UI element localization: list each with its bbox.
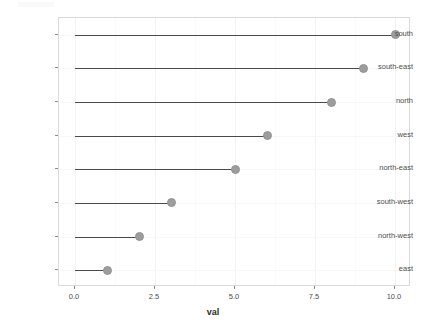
x-tick-mark: [154, 286, 155, 289]
gridline-major-x: [75, 18, 76, 285]
lollipop-point[interactable]: [327, 98, 336, 107]
gridline-minor-x: [275, 18, 276, 285]
y-tick-mark: [55, 67, 58, 68]
lollipop-point[interactable]: [263, 131, 272, 140]
gridline-major-x: [315, 18, 316, 285]
lollipop-segment: [75, 237, 139, 238]
y-tick-mark: [55, 269, 58, 270]
plot-panel: [58, 17, 410, 286]
y-tick-label-north: north: [396, 97, 413, 105]
lollipop-segment: [75, 169, 235, 170]
lollipop-segment: [75, 35, 395, 36]
y-tick-mark: [55, 34, 58, 35]
y-tick-label-west: west: [398, 131, 413, 139]
gridline-major-x: [155, 18, 156, 285]
lollipop-segment: [75, 102, 331, 103]
x-tick-mark: [394, 286, 395, 289]
y-tick-label-north-west: north-west: [378, 232, 413, 240]
lollipop-point[interactable]: [167, 198, 176, 207]
lollipop-chart: southsouth-eastnorthwestnorth-eastsouth-…: [0, 0, 426, 329]
image-artifact: [18, 2, 54, 7]
y-tick-mark: [55, 236, 58, 237]
gridline-minor-x: [195, 18, 196, 285]
x-tick-label-5.0: 5.0: [229, 293, 239, 301]
x-tick-mark: [234, 286, 235, 289]
lollipop-segment: [75, 136, 267, 137]
y-tick-label-south: south: [395, 30, 413, 38]
y-tick-label-north-east: north-east: [379, 165, 413, 173]
y-tick-label-east: east: [399, 265, 413, 273]
gridline-major-y: [59, 270, 409, 271]
x-tick-label-2.5: 2.5: [149, 293, 159, 301]
gridline-minor-x: [355, 18, 356, 285]
x-tick-mark: [314, 286, 315, 289]
x-tick-label-7.5: 7.5: [309, 293, 319, 301]
y-tick-label-south-west: south-west: [377, 198, 413, 206]
x-tick-label-10.0: 10.0: [387, 293, 402, 301]
gridline-major-x: [235, 18, 236, 285]
gridline-major-x: [395, 18, 396, 285]
lollipop-point[interactable]: [103, 266, 112, 275]
lollipop-point[interactable]: [231, 165, 240, 174]
lollipop-segment: [75, 68, 363, 69]
y-tick-mark: [55, 202, 58, 203]
y-tick-mark: [55, 168, 58, 169]
y-tick-label-south-east: south-east: [378, 64, 413, 72]
x-tick-mark: [74, 286, 75, 289]
y-tick-mark: [55, 135, 58, 136]
x-axis-title: val: [0, 307, 426, 317]
lollipop-point[interactable]: [135, 232, 144, 241]
lollipop-point[interactable]: [359, 64, 368, 73]
y-tick-mark: [55, 101, 58, 102]
lollipop-segment: [75, 203, 171, 204]
gridline-minor-x: [115, 18, 116, 285]
x-tick-label-0.0: 0.0: [69, 293, 79, 301]
